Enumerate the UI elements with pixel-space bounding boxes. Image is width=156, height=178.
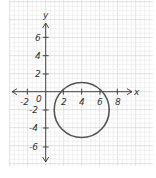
x-tick-label: 6 bbox=[97, 97, 103, 107]
y-tick-label: 2 bbox=[35, 69, 41, 79]
y-tick-label: -2 bbox=[29, 105, 38, 115]
x-tick-label: 8 bbox=[115, 97, 121, 107]
y-tick-label: -6 bbox=[29, 142, 38, 152]
x-axis bbox=[12, 89, 132, 95]
y-tick-label: 4 bbox=[35, 51, 41, 61]
origin-label: 0 bbox=[36, 94, 42, 104]
y-tick-label: 6 bbox=[35, 33, 41, 43]
x-tick-label: 4 bbox=[79, 97, 85, 107]
y-axis-label: y bbox=[42, 10, 49, 20]
y-tick-label: -4 bbox=[29, 123, 38, 133]
x-tick-label: 2 bbox=[61, 97, 67, 107]
coordinate-plane: y x 0 -2 2 4 6 8 6 4 2 -2 -4 -6 bbox=[0, 0, 156, 178]
x-axis-label: x bbox=[133, 87, 140, 97]
x-tick-label: -2 bbox=[20, 97, 29, 107]
